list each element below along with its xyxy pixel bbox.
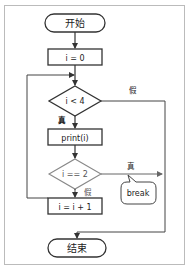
end-node: 结束 (48, 239, 106, 257)
print-label: print(i) (61, 134, 88, 143)
condition-2-label: i == 2 (62, 170, 88, 179)
start-node: 开始 (45, 14, 105, 32)
init-label: i = 0 (65, 54, 84, 63)
condition-2-true-label: 真 (127, 161, 135, 171)
break-callout: break (121, 175, 156, 204)
condition-2-node: i == 2 (49, 159, 101, 189)
condition-2-false-label: 假 (84, 188, 92, 197)
flowchart-diagram: 开始 i = 0 i < 4 假 真 print(i) i == 2 真 假 b… (0, 0, 189, 270)
increment-label: i = i + 1 (58, 203, 91, 212)
condition-1-false-label: 假 (129, 86, 137, 95)
end-label: 结束 (67, 242, 87, 254)
condition-1-node: i < 4 (49, 86, 101, 116)
condition-1-label: i < 4 (65, 97, 84, 106)
start-label: 开始 (65, 17, 85, 29)
break-label: break (127, 189, 150, 198)
increment-node: i = i + 1 (48, 198, 102, 214)
init-node: i = 0 (48, 49, 102, 65)
print-node: print(i) (48, 129, 102, 145)
condition-1-true-label: 真 (58, 115, 66, 125)
